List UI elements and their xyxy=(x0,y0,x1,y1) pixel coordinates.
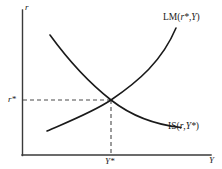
x-axis-label: Y xyxy=(209,156,214,165)
is-curve xyxy=(50,35,181,128)
lm-label-arg1: r* xyxy=(180,12,188,22)
y-axis-tick-label-r-star: r* xyxy=(8,95,16,104)
is-label-arg2: Y* xyxy=(186,121,196,131)
plot-area xyxy=(0,0,222,169)
lm-curve-label: LM(r*,Y) xyxy=(163,13,200,23)
is-label-prefix: IS( xyxy=(168,121,180,131)
lm-label-suffix: ) xyxy=(197,12,200,22)
x-axis-tick-label-y-star: Y* xyxy=(105,157,115,166)
y-axis-label: r xyxy=(25,3,29,12)
is-lm-figure: r Y r* Y* LM(r*,Y) IS(r,Y*) xyxy=(0,0,222,169)
is-label-suffix: ) xyxy=(196,121,199,131)
lm-label-prefix: LM( xyxy=(163,12,180,22)
is-curve-label: IS(r,Y*) xyxy=(168,122,199,132)
